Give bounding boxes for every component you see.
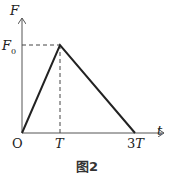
force-time-graph <box>0 0 177 174</box>
x-axis-label: t <box>157 124 162 137</box>
f0-tick-label: F0 <box>2 39 16 56</box>
force-curve <box>22 45 135 133</box>
t-tick-label: T <box>55 137 64 150</box>
figure-caption: 图2 <box>76 156 98 174</box>
y-axis-label: F <box>10 4 19 17</box>
origin-label: O <box>12 137 23 150</box>
three-t-tick-label: 3T <box>127 137 144 150</box>
